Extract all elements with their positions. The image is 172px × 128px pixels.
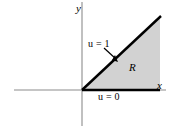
boundary-condition-u-equals-0: u = 0 — [98, 92, 120, 102]
boundary-condition-u-equals-1: u = 1 — [88, 39, 110, 49]
u1-leader-arrow — [104, 48, 118, 62]
y-axis-label: y — [76, 3, 81, 14]
x-axis-label: x — [157, 80, 162, 91]
region-label-R: R — [129, 62, 136, 73]
math-figure: y x R u = 1 u = 0 — [0, 0, 172, 128]
figure-canvas — [0, 0, 172, 128]
